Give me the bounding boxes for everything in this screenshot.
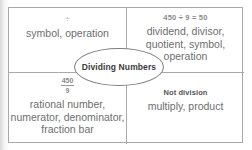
quadrant-bottom-right-example: Not division	[163, 88, 207, 97]
quadrant-top-right-example: 450 ÷ 9 = 50	[163, 13, 207, 23]
quadrant-bottom-left-terms: rational number, numerator, denominator,…	[11, 98, 125, 136]
quadrant-bottom-right: Not division multiply, product	[127, 73, 244, 144]
quadrant-bottom-left-fraction: 450 9	[61, 77, 75, 94]
diagram-canvas: ÷ symbol, operation 450 ÷ 9 = 50 dividen…	[0, 0, 252, 150]
center-ellipse-label: Dividing Numbers	[82, 62, 156, 72]
quadrant-top-left-example: ÷	[65, 14, 70, 24]
fraction-numerator: 450	[61, 77, 75, 85]
center-ellipse: Dividing Numbers	[74, 48, 164, 86]
quadrant-top-left-terms: symbol, operation	[11, 27, 125, 40]
quadrant-bottom-right-terms: multiply, product	[129, 100, 243, 113]
fraction-denominator: 9	[65, 87, 71, 95]
